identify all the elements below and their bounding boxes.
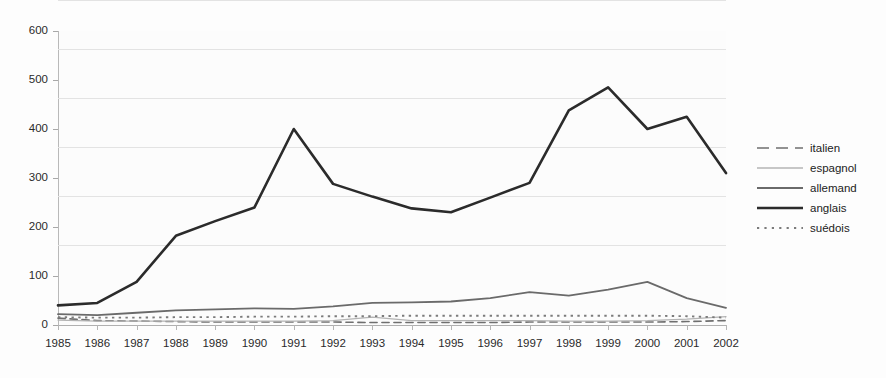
gridline [58,147,726,148]
x-tick-label: 1985 [38,337,78,349]
x-tick-label: 1990 [234,337,274,349]
y-tick-label: 100 [4,270,48,281]
x-tick-label: 1991 [274,337,314,349]
y-tick-label: 300 [4,172,48,183]
legend-item-espagnol[interactable]: espagnol [757,158,882,178]
y-tick-mark [53,227,58,228]
x-tick-label: 1996 [470,337,510,349]
gridline [58,98,726,99]
legend-item-italien[interactable]: italien [757,138,882,158]
x-tick-mark [451,325,452,330]
legend-swatch-espagnol-icon [757,162,803,174]
y-tick-mark [53,31,58,32]
x-axis-line [58,325,727,326]
x-tick-label: 1998 [549,337,589,349]
y-tick-mark [53,129,58,130]
legend-swatch-allemand-icon [757,182,803,194]
legend-label: espagnol [810,162,857,174]
x-tick-mark [726,325,727,330]
legend-item-allemand[interactable]: allemand [757,178,882,198]
x-tick-label: 2001 [667,337,707,349]
legend-item-suédois[interactable]: suédois [757,218,882,238]
line-chart: 0100200300400500600 19851986198719881989… [0,0,886,378]
y-tick-label: 200 [4,221,48,232]
x-tick-mark [58,325,59,330]
legend-label: anglais [810,202,846,214]
x-tick-label: 1992 [313,337,353,349]
x-tick-mark [137,325,138,330]
x-tick-label: 1986 [77,337,117,349]
legend-swatch-anglais-icon [757,202,803,214]
x-tick-label: 1993 [352,337,392,349]
x-tick-label: 2000 [627,337,667,349]
x-tick-mark [215,325,216,330]
x-tick-label: 1987 [117,337,157,349]
x-tick-mark [294,325,295,330]
x-tick-mark [530,325,531,330]
x-tick-label: 1999 [588,337,628,349]
y-tick-label: 600 [4,25,48,36]
gridline [58,49,726,50]
y-axis-line [58,31,59,326]
plot-area [58,31,726,325]
gridline [58,245,726,246]
x-tick-label: 1989 [195,337,235,349]
gridline [58,196,726,197]
x-tick-label: 1994 [392,337,432,349]
legend-label: allemand [810,182,857,194]
x-tick-mark [176,325,177,330]
x-tick-mark [569,325,570,330]
x-tick-label: 1997 [510,337,550,349]
x-tick-mark [608,325,609,330]
x-tick-label: 2002 [706,337,746,349]
y-tick-label: 400 [4,123,48,134]
x-tick-mark [333,325,334,330]
y-tick-mark [53,178,58,179]
x-tick-mark [412,325,413,330]
legend-item-anglais[interactable]: anglais [757,198,882,218]
y-tick-mark [53,276,58,277]
x-tick-label: 1988 [156,337,196,349]
x-tick-mark [254,325,255,330]
y-tick-label: 500 [4,74,48,85]
x-tick-mark [97,325,98,330]
x-tick-mark [687,325,688,330]
y-tick-label: 0 [4,319,48,330]
x-tick-mark [490,325,491,330]
legend: italienespagnolallemandanglaissuédois [757,138,882,238]
x-tick-mark [372,325,373,330]
legend-swatch-italien-icon [757,142,803,154]
x-tick-mark [647,325,648,330]
legend-label: suédois [810,222,850,234]
x-tick-label: 1995 [431,337,471,349]
legend-swatch-suédois-icon [757,222,803,234]
legend-label: italien [810,142,840,154]
gridline [58,0,726,1]
y-tick-mark [53,80,58,81]
